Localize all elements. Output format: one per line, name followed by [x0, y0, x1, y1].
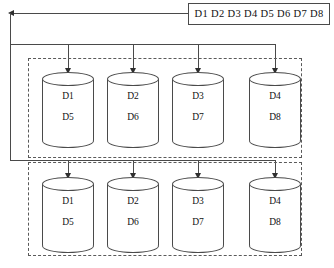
cylinder-top-ellipse [172, 72, 224, 86]
cylinder-top-ellipse [249, 177, 301, 191]
cylinder-top-ellipse [42, 177, 94, 191]
cylinder-label-bottom: D7 [172, 218, 224, 228]
database-cylinder-primary-4: D4 D8 [249, 72, 301, 148]
source-data-box: D1 D2 D3 D4 D5 D6 D7 D8 [188, 3, 330, 25]
cylinder-label-bottom: D8 [249, 113, 301, 123]
database-cylinder-replica-3: D3 D7 [172, 177, 224, 253]
cylinder-label-top: D3 [172, 197, 224, 207]
cylinder-label-bottom: D6 [107, 218, 159, 228]
diagram-canvas: D1 D2 D3 D4 D5 D6 D7 D8 D1 D5 [0, 0, 334, 268]
source-data-label: D1 D2 D3 D4 D5 D6 D7 D8 [194, 9, 323, 20]
return-arrow-left-icon [8, 10, 14, 16]
cylinder-label-top: D1 [42, 92, 94, 102]
database-cylinder-primary-3: D3 D7 [172, 72, 224, 148]
cylinder-labels: D1 D5 [42, 197, 94, 227]
cylinder-labels: D1 D5 [42, 92, 94, 122]
database-cylinder-replica-4: D4 D8 [249, 177, 301, 253]
cylinder-label-top: D3 [172, 92, 224, 102]
database-cylinder-primary-1: D1 D5 [42, 72, 94, 148]
cylinder-labels: D2 D6 [107, 92, 159, 122]
cylinder-label-bottom: D8 [249, 218, 301, 228]
cylinder-label-top: D4 [249, 197, 301, 207]
trunk-vertical-line [10, 13, 11, 161]
cylinder-label-bottom: D7 [172, 113, 224, 123]
cylinder-labels: D3 D7 [172, 92, 224, 122]
cylinder-top-ellipse [42, 72, 94, 86]
cylinder-top-ellipse [172, 177, 224, 191]
primary-distribution-bus [10, 44, 276, 45]
cylinder-labels: D2 D6 [107, 197, 159, 227]
cylinder-labels: D4 D8 [249, 197, 301, 227]
cylinder-label-bottom: D5 [42, 218, 94, 228]
cylinder-label-bottom: D5 [42, 113, 94, 123]
cylinder-label-top: D2 [107, 197, 159, 207]
source-return-line [10, 13, 188, 14]
replica-distribution-bus [10, 160, 276, 161]
cylinder-label-top: D1 [42, 197, 94, 207]
cylinder-labels: D3 D7 [172, 197, 224, 227]
database-cylinder-replica-1: D1 D5 [42, 177, 94, 253]
cylinder-top-ellipse [107, 72, 159, 86]
database-cylinder-primary-2: D2 D6 [107, 72, 159, 148]
cylinder-labels: D4 D8 [249, 92, 301, 122]
cylinder-label-bottom: D6 [107, 113, 159, 123]
cylinder-label-top: D2 [107, 92, 159, 102]
cylinder-top-ellipse [107, 177, 159, 191]
database-cylinder-replica-2: D2 D6 [107, 177, 159, 253]
cylinder-top-ellipse [249, 72, 301, 86]
cylinder-label-top: D4 [249, 92, 301, 102]
